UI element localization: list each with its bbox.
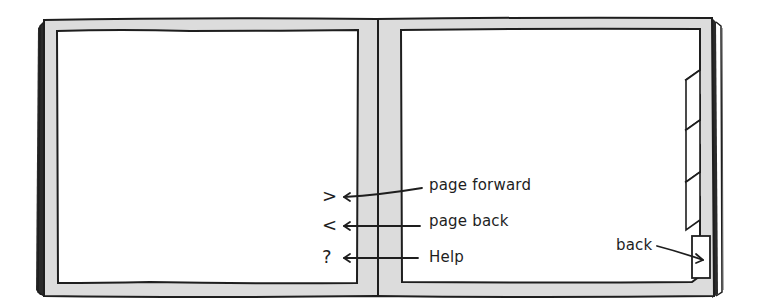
back-button[interactable] <box>692 236 710 278</box>
back-label: back <box>616 238 652 253</box>
page-forward-button[interactable]: > <box>322 187 337 205</box>
page-back-button[interactable]: < <box>322 216 337 234</box>
help-button[interactable]: ? <box>322 248 332 266</box>
book-illustration <box>0 0 757 308</box>
tab-3[interactable] <box>686 172 700 230</box>
left-page <box>57 30 358 283</box>
help-label: Help <box>429 250 464 265</box>
right-page <box>401 29 700 283</box>
page-back-label: page back <box>429 214 509 229</box>
page-forward-label: page forward <box>429 178 531 193</box>
